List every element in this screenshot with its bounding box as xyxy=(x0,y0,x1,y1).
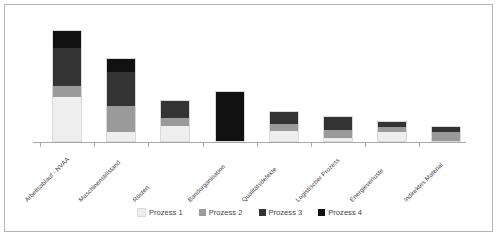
legend-label-1: Prozess 1 xyxy=(149,208,183,217)
legend-item-4[interactable]: Prozess 4 xyxy=(318,208,362,217)
axis-tick-2 xyxy=(94,143,95,147)
bar-8[interactable] xyxy=(431,126,461,142)
bar-segment-prozess-3[interactable] xyxy=(324,117,352,130)
legend-item-1[interactable]: Prozess 1 xyxy=(137,208,183,217)
bar-segment-prozess-3[interactable] xyxy=(107,72,135,107)
bar-segment-prozess-2[interactable] xyxy=(161,118,189,126)
bar-4[interactable] xyxy=(215,91,245,142)
category-label-5: Qualitätsdefekte xyxy=(240,165,278,203)
legend-swatch-icon-4 xyxy=(318,209,325,216)
bar-segment-prozess-2[interactable] xyxy=(53,86,81,97)
axis-tick-1 xyxy=(40,143,41,147)
axis-tick-6 xyxy=(311,143,312,147)
bar-segment-prozess-1[interactable] xyxy=(270,131,298,141)
bar-segment-prozess-3[interactable] xyxy=(270,112,298,124)
bar-segment-prozess-4[interactable] xyxy=(216,92,244,141)
bar-segment-prozess-2[interactable] xyxy=(432,132,460,141)
bar-segment-prozess-3[interactable] xyxy=(161,101,189,118)
category-label-1: Arbeitsablauf - NVAA xyxy=(23,156,70,203)
legend-label-4: Prozess 4 xyxy=(328,208,362,217)
legend-label-3: Prozess 3 xyxy=(269,208,303,217)
bar-5[interactable] xyxy=(269,111,299,142)
legend-swatch-icon-1 xyxy=(137,208,146,217)
category-label-3: Rüsten xyxy=(131,184,150,203)
bar-segment-prozess-2[interactable] xyxy=(107,106,135,132)
category-label-8: Indirektes Material xyxy=(402,161,444,203)
bar-segment-prozess-4[interactable] xyxy=(53,31,81,48)
axis-tick-7 xyxy=(365,143,366,147)
bar-2[interactable] xyxy=(106,58,136,142)
chart-frame: Arbeitsablauf - NVAAMaschinenstillstandR… xyxy=(4,4,493,232)
bar-segment-prozess-4[interactable] xyxy=(107,59,135,71)
legend-swatch-icon-2 xyxy=(199,209,206,216)
x-axis-line xyxy=(33,142,466,143)
axis-tick-8 xyxy=(419,143,420,147)
legend-label-2: Prozess 2 xyxy=(209,208,243,217)
legend-swatch-icon-3 xyxy=(259,209,266,216)
axis-tick-4 xyxy=(203,143,204,147)
axis-tick-3 xyxy=(148,143,149,147)
chart-legend: Prozess 1Prozess 2Prozess 3Prozess 4 xyxy=(5,208,494,217)
axis-tick-5 xyxy=(257,143,258,147)
bar-segment-prozess-1[interactable] xyxy=(324,138,352,141)
bar-segment-prozess-1[interactable] xyxy=(53,97,81,141)
bar-segment-prozess-1[interactable] xyxy=(378,132,406,141)
bar-3[interactable] xyxy=(160,100,190,142)
category-label-6: Logistischer Prozess xyxy=(294,156,341,203)
category-label-2: Maschinenstillstand xyxy=(77,158,121,202)
bar-7[interactable] xyxy=(377,121,407,142)
category-label-7: Energieverluste xyxy=(348,167,384,203)
plot-area: Arbeitsablauf - NVAAMaschinenstillstandR… xyxy=(5,5,494,233)
legend-item-3[interactable]: Prozess 3 xyxy=(259,208,303,217)
bar-segment-prozess-1[interactable] xyxy=(107,132,135,141)
bar-segment-prozess-3[interactable] xyxy=(53,48,81,86)
category-label-4: Bandorganisation xyxy=(186,163,226,203)
bar-1[interactable] xyxy=(52,30,82,142)
bar-segment-prozess-2[interactable] xyxy=(270,124,298,131)
legend-item-2[interactable]: Prozess 2 xyxy=(199,208,243,217)
bar-segment-prozess-1[interactable] xyxy=(161,126,189,141)
bar-segment-prozess-2[interactable] xyxy=(324,130,352,138)
bar-6[interactable] xyxy=(323,116,353,142)
